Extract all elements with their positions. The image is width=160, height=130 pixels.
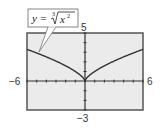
graph-figure: −6 6 5 −3 y = 3 x 2 bbox=[0, 0, 160, 130]
ymax-label: 5 bbox=[81, 22, 87, 33]
radicand-exponent: 2 bbox=[67, 13, 70, 19]
root-index: 3 bbox=[52, 11, 55, 17]
radicand: x bbox=[59, 13, 65, 25]
xmin-label: −6 bbox=[9, 76, 21, 87]
ymin-label: −3 bbox=[77, 113, 89, 124]
xmax-label: 6 bbox=[147, 76, 153, 87]
callout-lhs: y = bbox=[31, 12, 47, 24]
